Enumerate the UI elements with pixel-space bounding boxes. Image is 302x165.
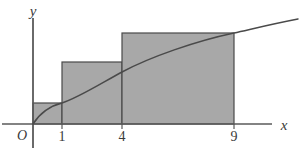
tick-label-9: 9 bbox=[231, 129, 238, 144]
y-axis-label: y bbox=[28, 3, 37, 19]
figure-canvas: y x O 1 4 9 bbox=[0, 0, 302, 165]
rectangle-4-to-9 bbox=[122, 33, 234, 124]
rectangle-0-to-1 bbox=[33, 103, 62, 124]
rectangle-1-to-4 bbox=[62, 62, 122, 124]
x-axis-label: x bbox=[280, 117, 288, 133]
origin-label: O bbox=[17, 128, 27, 143]
tick-label-1: 1 bbox=[59, 129, 66, 144]
riemann-sum-figure: y x O 1 4 9 bbox=[0, 0, 302, 165]
tick-label-4: 4 bbox=[119, 129, 126, 144]
riemann-rectangles bbox=[33, 33, 234, 124]
